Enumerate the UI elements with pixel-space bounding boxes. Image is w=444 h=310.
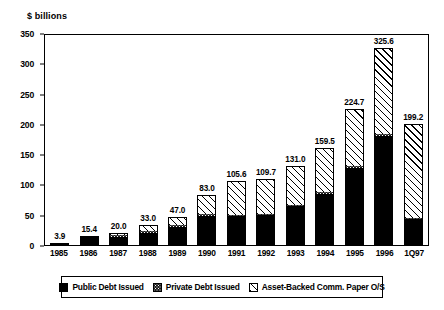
bar-value-label: 199.2 bbox=[403, 113, 423, 122]
stacked-bar[interactable] bbox=[286, 166, 305, 245]
y-axis-tick-label: 150 bbox=[20, 150, 34, 160]
solid-black-swatch bbox=[59, 283, 68, 292]
stacked-bar[interactable] bbox=[256, 179, 275, 245]
legend-item[interactable]: Asset-Backed Comm. Paper O/S bbox=[249, 282, 385, 292]
stacked-bar[interactable] bbox=[197, 195, 216, 245]
bar-value-label: 131.0 bbox=[285, 155, 305, 164]
stacked-bar[interactable] bbox=[345, 109, 364, 245]
bar-column[interactable]: 47.0 bbox=[164, 35, 191, 245]
bar-segment-public bbox=[169, 227, 186, 244]
bar-segment-public bbox=[140, 233, 157, 244]
bar-segment-public bbox=[257, 215, 274, 244]
x-axis-tick-label: 1994 bbox=[312, 248, 339, 258]
bar-column[interactable]: 131.0 bbox=[282, 35, 309, 245]
stacked-bar[interactable] bbox=[404, 124, 423, 245]
bar-column[interactable]: 199.2 bbox=[400, 35, 427, 245]
bar-segment-public bbox=[198, 216, 215, 244]
y-axis: 050100150200250300350 bbox=[0, 34, 44, 246]
bar-column[interactable]: 159.5 bbox=[311, 35, 338, 245]
bar-segment-public bbox=[110, 237, 127, 244]
stacked-bar[interactable] bbox=[168, 217, 187, 245]
bar-segment-abcp bbox=[169, 218, 186, 226]
stacked-bar[interactable] bbox=[109, 233, 128, 245]
bar-value-label: 109.7 bbox=[256, 168, 276, 177]
bar-segment-abcp bbox=[198, 196, 215, 215]
x-axis-tick-label: 1987 bbox=[104, 248, 131, 258]
bar-value-label: 3.9 bbox=[54, 232, 65, 241]
x-axis-tick-label: 1Q97 bbox=[400, 248, 427, 258]
bar-value-label: 47.0 bbox=[170, 206, 186, 215]
y-axis-tick-label: 0 bbox=[29, 241, 34, 251]
bar-column[interactable]: 109.7 bbox=[252, 35, 279, 245]
bar-column[interactable]: 3.9 bbox=[46, 35, 73, 245]
bar-segment-public bbox=[405, 219, 422, 244]
stacked-bar[interactable] bbox=[315, 148, 334, 245]
x-axis-tick-label: 1996 bbox=[371, 248, 398, 258]
x-axis-tick-label: 1985 bbox=[45, 248, 72, 258]
bar-value-label: 83.0 bbox=[199, 184, 215, 193]
y-axis-tick-label: 100 bbox=[20, 180, 34, 190]
bar-segment-abcp bbox=[228, 182, 245, 215]
stacked-bar[interactable] bbox=[139, 225, 158, 245]
x-axis-tick-label: 1995 bbox=[341, 248, 368, 258]
x-axis-tick-label: 1990 bbox=[193, 248, 220, 258]
bar-column[interactable]: 105.6 bbox=[223, 35, 250, 245]
bar-column[interactable]: 325.6 bbox=[370, 35, 397, 245]
bar-column[interactable]: 224.7 bbox=[341, 35, 368, 245]
bar-value-label: 105.6 bbox=[226, 170, 246, 179]
chart-root: $ billions 050100150200250300350 3.915.4… bbox=[0, 0, 444, 310]
bar-column[interactable]: 15.4 bbox=[76, 35, 103, 245]
bar-segment-public bbox=[346, 168, 363, 244]
bar-value-label: 325.6 bbox=[374, 37, 394, 46]
bar-segment-abcp bbox=[257, 180, 274, 214]
legend-label: Private Debt Issued bbox=[166, 282, 240, 292]
legend: Public Debt IssuedPrivate Debt IssuedAss… bbox=[61, 276, 383, 298]
bar-segment-abcp bbox=[346, 110, 363, 166]
x-axis-tick-label: 1993 bbox=[282, 248, 309, 258]
bar-segment-public bbox=[316, 194, 333, 244]
bar-segment-public bbox=[375, 136, 392, 244]
stipple-swatch bbox=[153, 283, 162, 292]
y-axis-tick-label: 200 bbox=[20, 120, 34, 130]
x-axis-tick-label: 1989 bbox=[164, 248, 191, 258]
x-axis-tick-label: 1992 bbox=[252, 248, 279, 258]
y-axis-tick-label: 50 bbox=[25, 211, 34, 221]
y-axis-tick-label: 350 bbox=[20, 29, 34, 39]
legend-label: Public Debt Issued bbox=[72, 282, 143, 292]
bar-column[interactable]: 20.0 bbox=[105, 35, 132, 245]
plot-area: 3.915.420.033.047.083.0105.6109.7131.015… bbox=[44, 34, 429, 246]
x-axis-tick-label: 1991 bbox=[223, 248, 250, 258]
bar-group: 3.915.420.033.047.083.0105.6109.7131.015… bbox=[45, 35, 428, 245]
bar-segment-abcp bbox=[405, 125, 422, 218]
bar-value-label: 224.7 bbox=[344, 98, 364, 107]
bar-column[interactable]: 33.0 bbox=[134, 35, 161, 245]
bar-value-label: 20.0 bbox=[111, 222, 127, 231]
stacked-bar[interactable] bbox=[80, 236, 99, 245]
bar-value-label: 159.5 bbox=[315, 137, 335, 146]
stacked-bar[interactable] bbox=[50, 243, 69, 245]
legend-item[interactable]: Private Debt Issued bbox=[153, 282, 240, 292]
bar-segment-abcp bbox=[316, 149, 333, 192]
bar-segment-public bbox=[287, 206, 304, 244]
legend-item[interactable]: Public Debt Issued bbox=[59, 282, 143, 292]
x-axis: 1985198619871988198919901991199219931994… bbox=[44, 248, 429, 258]
stacked-bar[interactable] bbox=[227, 181, 246, 245]
hatch-swatch bbox=[249, 283, 258, 292]
bar-column[interactable]: 83.0 bbox=[193, 35, 220, 245]
bar-segment-abcp bbox=[375, 49, 392, 134]
bar-value-label: 15.4 bbox=[81, 225, 97, 234]
y-axis-title: $ billions bbox=[27, 11, 67, 21]
legend-label: Asset-Backed Comm. Paper O/S bbox=[262, 282, 385, 292]
x-axis-tick-label: 1988 bbox=[134, 248, 161, 258]
bar-segment-public bbox=[228, 216, 245, 244]
bar-value-label: 33.0 bbox=[140, 214, 156, 223]
x-axis-tick-label: 1986 bbox=[75, 248, 102, 258]
bar-segment-public bbox=[81, 237, 98, 244]
stacked-bar[interactable] bbox=[374, 48, 393, 245]
y-axis-tick-label: 300 bbox=[20, 59, 34, 69]
bar-segment-abcp bbox=[287, 167, 304, 205]
y-axis-tick-label: 250 bbox=[20, 90, 34, 100]
